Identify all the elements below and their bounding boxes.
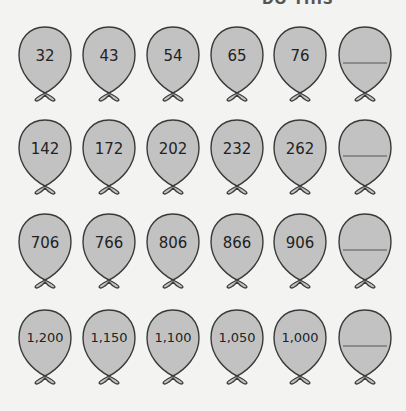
number-balloon: 232: [209, 118, 265, 202]
balloon-icon: [272, 25, 328, 109]
balloon-number: 1,150: [81, 330, 137, 345]
balloon-icon: [209, 212, 265, 296]
balloon-icon: [209, 25, 265, 109]
number-balloon: 76: [272, 25, 328, 109]
balloon-number: 76: [272, 47, 328, 65]
number-balloon: 1,050: [209, 308, 265, 392]
number-balloon: 766: [81, 212, 137, 296]
balloon-icon: [209, 308, 265, 392]
number-balloon: 54: [145, 25, 201, 109]
balloon-icon: [272, 118, 328, 202]
number-balloon: 1,200: [17, 308, 73, 392]
balloon-icon: [337, 212, 393, 296]
balloon-number: 232: [209, 140, 265, 158]
balloon-icon: [17, 308, 73, 392]
balloon-number: 142: [17, 140, 73, 158]
balloon-number: 906: [272, 234, 328, 252]
number-balloon: 142: [17, 118, 73, 202]
number-balloon: 262: [272, 118, 328, 202]
number-balloon: 1,150: [81, 308, 137, 392]
balloon-number: 65: [209, 47, 265, 65]
balloon-icon: [337, 308, 393, 392]
number-balloon: 1,100: [145, 308, 201, 392]
answer-balloon[interactable]: [337, 118, 393, 202]
number-balloon: 43: [81, 25, 137, 109]
number-balloon: 906: [272, 212, 328, 296]
number-balloon: 806: [145, 212, 201, 296]
number-balloon: 1,000: [272, 308, 328, 392]
balloon-icon: [272, 212, 328, 296]
balloon-number: 806: [145, 234, 201, 252]
balloon-icon: [337, 25, 393, 109]
number-balloon: 202: [145, 118, 201, 202]
balloon-number: 43: [81, 47, 137, 65]
balloon-number: 866: [209, 234, 265, 252]
answer-balloon[interactable]: [337, 212, 393, 296]
balloon-icon: [145, 308, 201, 392]
balloon-number: 202: [145, 140, 201, 158]
number-balloon: 65: [209, 25, 265, 109]
number-balloon: 706: [17, 212, 73, 296]
number-balloon: 32: [17, 25, 73, 109]
balloon-icon: [145, 212, 201, 296]
answer-balloon[interactable]: [337, 25, 393, 109]
balloon-icon: [81, 308, 137, 392]
balloon-icon: [272, 308, 328, 392]
balloon-icon: [81, 212, 137, 296]
balloon-icon: [209, 118, 265, 202]
balloon-number: 262: [272, 140, 328, 158]
number-balloon: 866: [209, 212, 265, 296]
number-balloon: 172: [81, 118, 137, 202]
page-header-text: DO THIS: [262, 0, 334, 7]
balloon-number: 1,050: [209, 330, 265, 345]
balloon-icon: [17, 212, 73, 296]
balloon-icon: [81, 118, 137, 202]
balloon-icon: [145, 25, 201, 109]
balloon-number: 172: [81, 140, 137, 158]
answer-balloon[interactable]: [337, 308, 393, 392]
balloon-number: 54: [145, 47, 201, 65]
balloon-number: 706: [17, 234, 73, 252]
balloon-number: 32: [17, 47, 73, 65]
balloon-icon: [17, 118, 73, 202]
balloon-icon: [17, 25, 73, 109]
balloon-number: 1,200: [17, 330, 73, 345]
balloon-icon: [81, 25, 137, 109]
balloon-number: 766: [81, 234, 137, 252]
balloon-number: 1,100: [145, 330, 201, 345]
balloon-icon: [337, 118, 393, 202]
balloon-number: 1,000: [272, 330, 328, 345]
balloon-icon: [145, 118, 201, 202]
